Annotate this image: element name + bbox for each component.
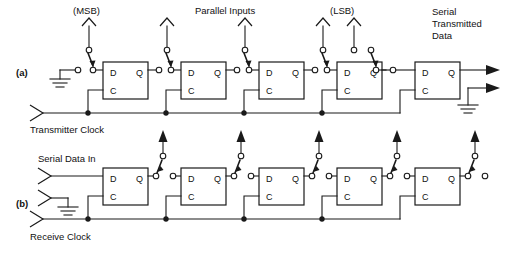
ff-b1-pin-d: D bbox=[110, 174, 117, 184]
switch-blade-tip-a2 bbox=[168, 61, 174, 68]
stage-b-5: D Q C bbox=[400, 130, 488, 219]
ff-b3-pin-q: Q bbox=[292, 174, 299, 184]
switch-pole-terminal-b5 bbox=[472, 153, 478, 159]
switch-pole-terminal-a2 bbox=[164, 47, 170, 53]
section-a-label: (a) bbox=[16, 67, 28, 78]
ff-b5-pin-d: D bbox=[422, 174, 429, 184]
switch-pole-terminal-a5b bbox=[368, 47, 374, 53]
stage-a-1: D Q C bbox=[82, 18, 162, 116]
switch-blade-tip-a4 bbox=[324, 61, 330, 68]
transmitter-clock-bus bbox=[30, 105, 400, 121]
terminal-ground-a bbox=[75, 67, 81, 73]
ff-a5-pin-d: D bbox=[422, 68, 429, 78]
stage-a-3: D Q C bbox=[238, 18, 318, 116]
ff-a2-pin-q: Q bbox=[214, 68, 221, 78]
ff-a3-pin-q: Q bbox=[292, 68, 299, 78]
ff-a3-pin-c: C bbox=[266, 86, 273, 96]
transmitter-clock-label: Transmitter Clock bbox=[30, 124, 104, 135]
switch-pole-terminal-b4 bbox=[394, 153, 400, 159]
serial-data-in-label: Serial Data In bbox=[38, 153, 96, 164]
stage-a-4: D Q C bbox=[316, 18, 396, 116]
switch-pole-terminal-a4 bbox=[320, 47, 326, 53]
ff-a1-pin-c: C bbox=[110, 86, 117, 96]
d-terminal-b3 bbox=[248, 173, 254, 179]
switch-pole-terminal-b2 bbox=[238, 153, 244, 159]
parallel-inputs-label: Parallel Inputs bbox=[195, 5, 255, 16]
switch-throw-terminal-a3 bbox=[246, 67, 252, 73]
switch-pole-terminal-a5 bbox=[351, 47, 357, 53]
parallel-output-arrow-b2 bbox=[237, 130, 246, 153]
ff-b2-pin-d: D bbox=[188, 174, 195, 184]
switch-throw-terminal-b5 bbox=[465, 173, 471, 179]
section-b-receiver: (b) Serial Data In D Q C bbox=[16, 130, 488, 242]
q-terminal-a3 bbox=[312, 67, 318, 73]
ff-b3-pin-d: D bbox=[266, 174, 273, 184]
q-terminal-a2 bbox=[234, 67, 240, 73]
parallel-input-arrow-a5 bbox=[347, 18, 361, 47]
d-terminal-b4 bbox=[326, 173, 332, 179]
ff-b4-pin-c: C bbox=[344, 192, 351, 202]
ff-b5-pin-c: C bbox=[422, 192, 429, 202]
receive-clock-label: Receive Clock bbox=[30, 231, 91, 242]
ff-a4-pin-c: C bbox=[344, 86, 351, 96]
shift-register-diagram: (a) (MSB) Parallel Inputs (LSB) Serial T… bbox=[0, 0, 514, 271]
parallel-output-arrow-b4 bbox=[393, 130, 402, 153]
open-terminal-b5 bbox=[482, 173, 488, 179]
switch-blade-tip-a1 bbox=[90, 61, 96, 68]
switch-throw-terminal-a2 bbox=[168, 67, 174, 73]
ground-input-arrow-b bbox=[38, 190, 78, 215]
ff-a4-pin-d: D bbox=[344, 68, 351, 78]
ff-b5-pin-q: Q bbox=[448, 174, 455, 184]
ff-a3-pin-d: D bbox=[266, 68, 273, 78]
d-terminal-b5 bbox=[404, 173, 410, 179]
ff-b4-pin-d: D bbox=[344, 174, 351, 184]
parallel-input-arrow-a1 bbox=[82, 18, 96, 47]
parallel-input-arrow-a2 bbox=[160, 18, 174, 47]
ff-a1-pin-d: D bbox=[110, 68, 117, 78]
ff-b2-pin-c: C bbox=[188, 192, 195, 202]
diagram-canvas: (a) (MSB) Parallel Inputs (LSB) Serial T… bbox=[0, 0, 514, 271]
serial-output-arrow bbox=[460, 65, 500, 75]
ff-b1-pin-q: Q bbox=[136, 174, 143, 184]
switch-pole-terminal-a1 bbox=[86, 47, 92, 53]
switch-throw-terminal-b2 bbox=[231, 173, 237, 179]
switch-throw-terminal-a4 bbox=[324, 67, 330, 73]
msb-label: (MSB) bbox=[73, 5, 100, 16]
q-terminal-a4 bbox=[390, 67, 396, 73]
ground-symbol-a bbox=[50, 70, 75, 87]
switch-throw-terminal-b4 bbox=[387, 173, 393, 179]
ff-a5-pin-q: Q bbox=[448, 68, 455, 78]
switch-throw-terminal-a5 bbox=[373, 67, 379, 73]
ff-b1-pin-c: C bbox=[110, 192, 117, 202]
section-b-label: (b) bbox=[16, 198, 28, 209]
parallel-output-arrow-b3 bbox=[315, 130, 324, 153]
serial-out-label-line1: Serial bbox=[432, 6, 456, 17]
serial-data-in-arrow bbox=[38, 168, 103, 184]
ff-a2-pin-d: D bbox=[188, 68, 195, 78]
ff-b3-pin-c: C bbox=[266, 192, 273, 202]
section-a-transmitter: (a) (MSB) Parallel Inputs (LSB) Serial T… bbox=[16, 5, 500, 135]
switch-blade-tip-a3 bbox=[246, 61, 252, 68]
parallel-input-arrow-a3 bbox=[238, 18, 252, 47]
parallel-input-arrow-a4 bbox=[316, 18, 330, 47]
ff-a5-pin-c: C bbox=[422, 86, 429, 96]
receive-clock-bus bbox=[30, 211, 400, 227]
switch-throw-terminal-b3 bbox=[309, 173, 315, 179]
d-terminal-b2 bbox=[170, 173, 176, 179]
parallel-output-arrow-b5 bbox=[471, 130, 480, 153]
switch-throw-terminal-b1 bbox=[153, 173, 159, 179]
ff-a1-pin-q: Q bbox=[136, 68, 143, 78]
q-terminal-a1 bbox=[156, 67, 162, 73]
parallel-output-arrow-b1 bbox=[159, 130, 168, 153]
stage-a-2: D Q C bbox=[160, 18, 240, 116]
ff-a2-pin-c: C bbox=[188, 86, 195, 96]
ground-output-arrow-a bbox=[458, 83, 500, 113]
lsb-label: (LSB) bbox=[330, 5, 354, 16]
switch-pole-terminal-b1 bbox=[160, 153, 166, 159]
serial-out-label-line2: Transmitted bbox=[432, 18, 482, 29]
ff-b4-pin-q: Q bbox=[370, 174, 377, 184]
serial-out-label-line3: Data bbox=[432, 30, 453, 41]
switch-throw-terminal-a1 bbox=[90, 67, 96, 73]
switch-pole-terminal-b3 bbox=[316, 153, 322, 159]
switch-pole-terminal-a3 bbox=[242, 47, 248, 53]
